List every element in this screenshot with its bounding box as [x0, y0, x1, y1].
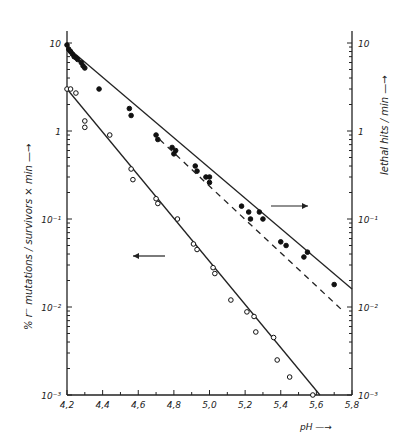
open-data-point — [129, 167, 134, 172]
x-tick-label: 4,4 — [95, 400, 110, 410]
open-data-point — [275, 358, 280, 363]
left-tick-label: 10 — [50, 39, 62, 49]
filled-data-point — [284, 243, 289, 248]
open-data-point — [252, 314, 257, 319]
log-scale-plot: 10101110⁻¹10⁻¹10⁻²10⁻²10⁻³10⁻³4,24,44,64… — [0, 0, 406, 444]
left-tick-label: 1 — [55, 127, 61, 137]
open-data-point — [156, 201, 161, 206]
filled-data-point — [248, 217, 253, 222]
right-tick-label: 10⁻¹ — [358, 215, 378, 225]
x-tick-label: 5,6 — [309, 400, 324, 410]
filled-data-point — [127, 106, 132, 111]
filled-data-point — [207, 175, 212, 180]
open-data-point — [175, 217, 180, 222]
filled-data-point — [239, 204, 244, 209]
left-axis-title: % r⁻ mutations / survivors × min —→ — [23, 144, 34, 330]
filled-data-point — [261, 217, 266, 222]
chart-figure: 10101110⁻¹10⁻¹10⁻²10⁻²10⁻³10⁻³4,24,44,64… — [0, 0, 406, 444]
filled-data-point — [193, 164, 198, 169]
open-data-point — [213, 271, 218, 276]
x-tick-label: 5,0 — [202, 400, 217, 410]
open-data-point — [287, 375, 292, 380]
filled-data-point — [246, 210, 251, 215]
open-data-point — [195, 247, 200, 252]
right-tick-label: 10 — [358, 39, 370, 49]
open-data-point — [74, 91, 79, 96]
open-data-point — [68, 87, 73, 92]
open-data-point — [191, 242, 196, 247]
x-tick-label: 4,2 — [60, 400, 75, 410]
open-data-point — [83, 125, 88, 130]
filled-data-point — [129, 113, 134, 118]
x-tick-label: 5,8 — [345, 400, 360, 410]
x-tick-label: 4,8 — [167, 400, 182, 410]
x-tick-label: 5,4 — [274, 400, 289, 410]
right-tick-label: 10⁻³ — [358, 391, 378, 401]
left-arrow-annotation-head — [133, 253, 139, 259]
filled-data-point — [257, 210, 262, 215]
right-tick-label: 1 — [358, 127, 364, 137]
open-data-point — [154, 196, 159, 201]
filled-data-point — [156, 137, 161, 142]
x-tick-label: 5,2 — [238, 400, 253, 410]
open-data-point — [131, 177, 136, 182]
open-data-point — [83, 119, 88, 124]
left-tick-label: 10⁻² — [41, 303, 61, 313]
filled-data-point — [97, 87, 102, 92]
open-data-point — [211, 265, 216, 270]
x-axis-title: pH —→ — [299, 422, 332, 432]
open-data-point — [254, 330, 259, 335]
filled-data-point — [305, 250, 310, 255]
filled-data-point — [207, 180, 212, 185]
open-data-point — [245, 310, 250, 315]
filled-data-point — [302, 255, 307, 260]
filled-data-point — [173, 148, 178, 153]
dashed-extrapolation-line — [160, 140, 343, 311]
left-tick-label: 10⁻³ — [41, 391, 61, 401]
filled-data-point — [154, 133, 159, 138]
left-tick-label: 10⁻¹ — [41, 215, 61, 225]
filled-data-point — [278, 240, 283, 245]
open-data-point — [311, 393, 316, 398]
open-data-point — [229, 298, 234, 303]
filled-data-point — [332, 282, 337, 287]
filled-data-point — [83, 66, 88, 71]
right-arrow-annotation-head — [302, 203, 308, 209]
open-data-point — [107, 133, 112, 138]
right-tick-label: 10⁻² — [358, 303, 378, 313]
x-tick-label: 4,6 — [131, 400, 146, 410]
right-axis-title: lethal hits / min —→ — [379, 75, 390, 175]
open-data-point — [271, 335, 276, 340]
